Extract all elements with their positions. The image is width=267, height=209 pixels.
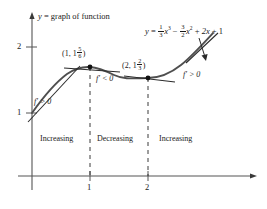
- point1-close-paren: ): [83, 49, 86, 58]
- equation-term2-exponent: 2: [190, 25, 193, 31]
- title-text: = graph of function: [44, 11, 110, 21]
- y-tick-label-1: 1: [17, 107, 21, 117]
- x-axis-arrowhead: [250, 173, 257, 178]
- derivative-label-right: f′ > 0: [183, 70, 200, 79]
- equation-term1-fraction: 1 3: [158, 24, 163, 39]
- figure-title: y = graph of function: [38, 11, 110, 21]
- point2-close-paren: ): [143, 61, 146, 70]
- point2-y-fraction: 23: [137, 58, 142, 72]
- equation-term3: 2x: [202, 26, 210, 36]
- title-y-symbol: y: [38, 11, 42, 21]
- point-marker-local-min: [146, 76, 151, 81]
- point2-y-whole: 1: [133, 61, 137, 70]
- point-marker-local-max: [88, 65, 93, 70]
- tangent-left: [28, 66, 80, 122]
- x-tick-label-1: 1: [87, 182, 91, 192]
- derivative-label-left: f′ > 0: [34, 97, 51, 106]
- y-tick-label-2: 2: [17, 41, 21, 51]
- equation-pointer-arrowhead: [202, 54, 208, 61]
- equation-term4: 1: [219, 26, 223, 36]
- equation-term1-numerator: 1: [158, 24, 163, 31]
- equation-term2-denominator: 2: [180, 31, 185, 39]
- equation-minus-sign: −: [173, 26, 178, 36]
- equation-lhs: y: [145, 26, 149, 36]
- region-label-increasing-right: Increasing: [159, 134, 192, 143]
- x-tick-label-2: 2: [145, 182, 149, 192]
- equation-term1-exponent: 3: [168, 25, 171, 31]
- derivative-label-middle: f′ < 0: [96, 74, 113, 83]
- equation-term1-denominator: 3: [158, 31, 163, 39]
- region-label-decreasing: Decreasing: [97, 134, 133, 143]
- point1-y-denominator: 6: [77, 52, 82, 59]
- equation-plus-sign-2: +: [212, 26, 217, 36]
- point1-y-fraction: 56: [77, 46, 82, 60]
- point2-y-denominator: 3: [137, 64, 142, 71]
- y-axis-arrowhead: [29, 12, 34, 19]
- equation-term2-fraction: 3 2: [180, 24, 185, 39]
- equation-equals: =: [151, 26, 156, 36]
- equation-term2-numerator: 3: [180, 24, 185, 31]
- point-label-local-max: (1, 156): [62, 46, 85, 60]
- region-label-increasing-left: Increasing: [40, 134, 73, 143]
- function-equation: y = 1 3 x3 − 3 2 x2 + 2x + 1: [145, 24, 223, 39]
- point-label-local-min: (2, 123): [122, 58, 145, 72]
- equation-plus-sign-1: +: [195, 26, 200, 36]
- point1-y-whole: 1: [73, 49, 77, 58]
